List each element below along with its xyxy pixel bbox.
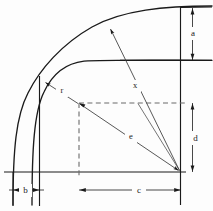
dimension-label-e: e: [129, 131, 133, 141]
technical-drawing: a d c b r e x: [0, 0, 213, 211]
dimension-label-d: d: [193, 133, 198, 143]
dimension-label-c: c: [137, 185, 141, 195]
dimension-a-extension-top: [181, 7, 213, 8]
dimension-label-a: a: [191, 28, 195, 38]
diagram-canvas: a d c b r e x: [0, 0, 213, 211]
dimension-label-b: b: [23, 185, 28, 195]
dimension-label-r: r: [61, 85, 64, 95]
